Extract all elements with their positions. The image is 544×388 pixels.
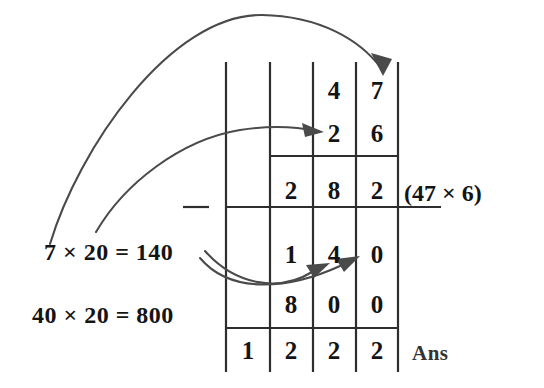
cell-r2-c3: 2 — [362, 178, 392, 203]
cell-r3-c1: 1 — [276, 242, 306, 267]
cell-r4-c3: 0 — [362, 292, 392, 317]
cell-r4-c2: 0 — [319, 292, 349, 317]
note-7-times-20: 7 × 20 = 140 — [44, 240, 173, 264]
grid-vertical-lines — [226, 62, 398, 372]
cell-r5-c0: 1 — [233, 338, 263, 363]
cell-r3-c2: 4 — [319, 242, 349, 267]
cell-r3-c3: 0 — [362, 242, 392, 267]
cell-r5-c2: 2 — [319, 338, 349, 363]
note-40-times-20: 40 × 20 = 800 — [32, 303, 174, 327]
cell-r1-c3: 6 — [362, 121, 392, 146]
cell-r5-c1: 2 — [276, 338, 306, 363]
cell-r0-c2: 4 — [319, 78, 349, 103]
figure-canvas: 4 7 2 6 2 8 2 1 4 0 8 0 0 1 2 2 2 7 × 20… — [0, 0, 544, 388]
cell-r0-c3: 7 — [362, 78, 392, 103]
partial-product-label: (47 × 6) — [404, 181, 482, 205]
arrow-7-to-units-head — [371, 53, 392, 76]
cell-r2-c1: 2 — [276, 178, 306, 203]
answer-label: Ans — [412, 343, 449, 364]
cell-r5-c3: 2 — [362, 338, 392, 363]
cell-r1-c2: 2 — [319, 121, 349, 146]
cell-r4-c1: 8 — [276, 292, 306, 317]
cell-r2-c2: 8 — [319, 178, 349, 203]
